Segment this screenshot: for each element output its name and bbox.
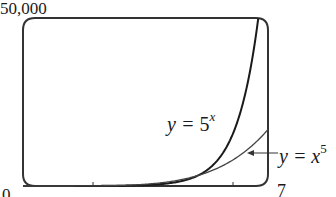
eq1-number: 5 xyxy=(199,113,209,135)
arrowhead-icon xyxy=(247,150,254,156)
x-axis-min-label: 0 xyxy=(2,186,11,197)
y-axis-max-label: 50,000 xyxy=(0,0,47,17)
chart-canvas xyxy=(0,0,336,197)
eq1-base: y = xyxy=(167,113,199,135)
eq2-base: y = x xyxy=(279,145,320,167)
label-5-to-x: y = 5x xyxy=(167,112,215,134)
label-x-to-5: y = x5 xyxy=(279,144,327,166)
curve-5-to-x xyxy=(23,19,258,186)
x-axis-max-label: 7 xyxy=(277,182,286,197)
eq2-exponent: 5 xyxy=(320,141,327,156)
eq1-exponent: x xyxy=(209,109,215,124)
